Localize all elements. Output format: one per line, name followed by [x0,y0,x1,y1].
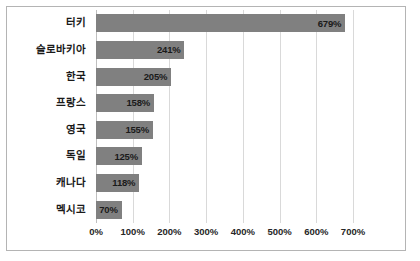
chart-frame: 터키슬로바키아한국프랑스영국독일캐나다멕시코 679%241%205%158%1… [6,6,406,251]
bar-row: 679% [96,10,391,37]
category-label: 한국 [66,71,86,82]
bar-value-label: 155% [125,125,149,135]
category-label: 프랑스 [56,97,86,108]
x-axis-tick-labels: 0%100%200%300%400%500%600%700% [96,227,391,243]
bar[interactable]: 155% [96,121,153,139]
bar-row: 70% [96,196,391,223]
bar-value-label: 158% [127,98,151,108]
x-tick-label: 0% [89,227,103,237]
category-label: 슬로바키아 [36,44,86,55]
bar-row: 158% [96,90,391,117]
x-tick-label: 500% [267,227,291,237]
bar-row: 205% [96,63,391,90]
x-tick-label: 200% [157,227,181,237]
bar-value-label: 241% [157,45,181,55]
bar[interactable]: 205% [96,68,171,86]
bar-row: 155% [96,117,391,144]
plot-area: 679%241%205%158%155%125%118%70% [96,10,391,223]
bar-row: 241% [96,37,391,64]
bar-value-label: 205% [144,72,168,82]
x-tick-label: 100% [121,227,145,237]
category-label: 영국 [66,124,86,135]
x-tick-label: 400% [231,227,255,237]
x-tick-label: 600% [304,227,328,237]
category-label: 터키 [66,17,86,28]
category-label: 독일 [66,150,86,161]
bar[interactable]: 70% [96,201,122,219]
bar-row: 125% [96,143,391,170]
bar[interactable]: 241% [96,41,184,59]
bar-value-label: 679% [318,19,342,29]
category-label: 멕시코 [56,204,86,215]
bar[interactable]: 158% [96,94,154,112]
bar-row: 118% [96,170,391,197]
bar[interactable]: 679% [96,14,345,32]
bar-value-label: 70% [99,205,117,215]
bar-value-label: 125% [114,152,138,162]
x-tick-label: 300% [194,227,218,237]
category-label: 캐나다 [56,177,86,188]
x-tick-label: 700% [341,227,365,237]
category-axis: 터키슬로바키아한국프랑스영국독일캐나다멕시코 [13,10,92,223]
bar[interactable]: 118% [96,174,139,192]
bar-value-label: 118% [112,178,135,188]
bar[interactable]: 125% [96,147,142,165]
